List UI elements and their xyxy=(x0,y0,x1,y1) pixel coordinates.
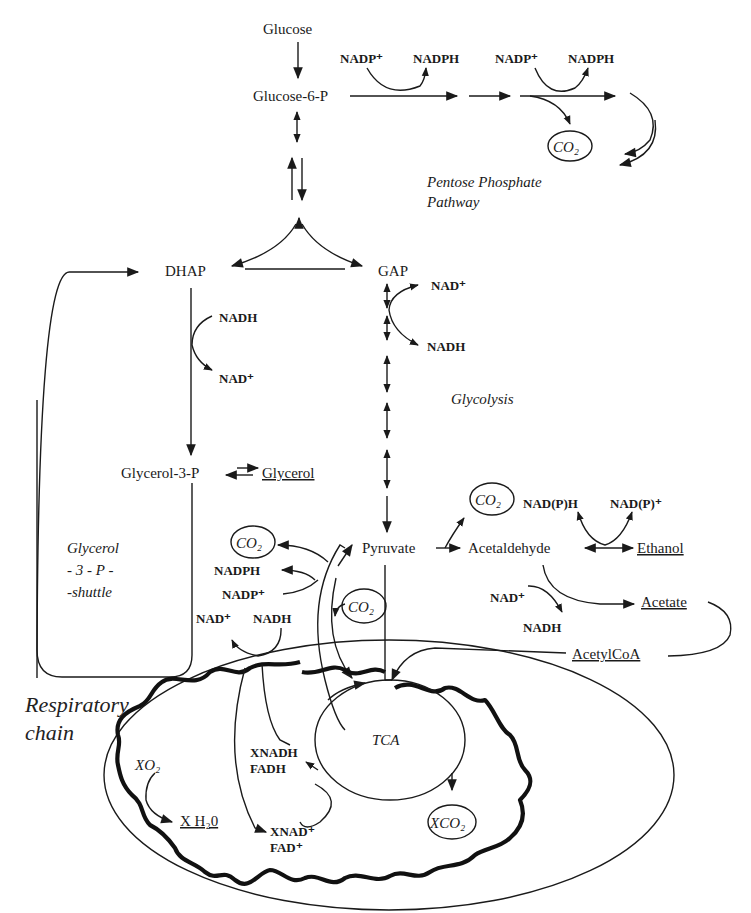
co2-label: CO₂ xyxy=(553,139,579,155)
metabolic-pathway-diagram: Glucose Glucose-6-P NADP⁺ NADPH NADP⁺ NA… xyxy=(0,0,751,913)
nadph-label: NADPH xyxy=(214,563,260,578)
tca-label: TCA xyxy=(372,732,400,748)
nadh-label: NADH xyxy=(219,310,257,325)
xo2-label: XO₂ xyxy=(134,757,160,773)
nad-label: NAD⁺ xyxy=(196,611,231,626)
aldolase-to-gap-arrow xyxy=(302,224,362,266)
acetaldehyde-label: Acetaldehyde xyxy=(468,540,551,556)
nadh-to-xnadh-line xyxy=(262,664,290,745)
aldolase-to-dhap-arrow xyxy=(232,224,296,266)
nadh-label: NADH xyxy=(427,339,465,354)
from-nadp-line xyxy=(283,580,318,594)
shuttle-title-line1: Glycerol xyxy=(67,540,119,556)
acetylcoa-label: AcetylCoA xyxy=(572,646,640,662)
nadph-nadp-curve xyxy=(578,512,632,545)
to-co2-arrow xyxy=(278,545,328,562)
co2-arrow xyxy=(335,604,345,616)
glycerol-label: Glycerol xyxy=(262,465,314,481)
respiratory-chain-title-line2: chain xyxy=(25,720,74,745)
gap-label: GAP xyxy=(378,263,408,279)
nadph-label: NADPH xyxy=(568,51,614,66)
shuttle-loop-line xyxy=(37,400,192,677)
ethanol-label: Ethanol xyxy=(637,540,684,556)
to-nadph-arrow xyxy=(282,570,315,580)
nadp-label: NADP⁺ xyxy=(340,51,383,66)
xh2o-label: X H₂0 xyxy=(180,813,218,829)
co2-label: CO₂ xyxy=(348,599,374,615)
nadp-label: NAD(P)⁺ xyxy=(610,496,662,511)
nad-label: NAD⁺ xyxy=(431,278,466,293)
nad-to-nadh-curve xyxy=(389,285,418,345)
shuttle-title-line3: -shuttle xyxy=(67,584,112,600)
nad-label: NAD⁺ xyxy=(490,590,525,605)
xnad-to-tca-curve xyxy=(300,784,331,827)
xnadh-label: XNADH xyxy=(250,745,298,760)
nadph-label: NADPH xyxy=(413,51,459,66)
shuttle-title-line2: - 3 - P - xyxy=(67,562,113,578)
to-pyruvate-arrow xyxy=(338,545,352,566)
ppp-curve-arrow xyxy=(620,120,656,165)
ppp-title-line2: Pathway xyxy=(426,194,480,210)
acetaldehyde-to-acetate-arrow xyxy=(543,565,634,604)
co2-label: CO₂ xyxy=(475,492,501,508)
glucose-label: Glucose xyxy=(263,21,312,37)
nadp-nadph-curve xyxy=(367,68,426,90)
nadp-label: NADP⁺ xyxy=(222,587,265,602)
fadh-label: FADH xyxy=(250,761,286,776)
respiratory-chain-title-line1: Respiratory xyxy=(24,692,129,717)
nadph-label: NAD(P)H xyxy=(523,496,578,511)
acetate-label: Acetate xyxy=(641,594,687,610)
nadh-label: NADH xyxy=(523,620,561,635)
ppp-curve-arrow xyxy=(625,93,653,154)
fad-label: FAD⁺ xyxy=(270,840,303,855)
xco2-label: XCO₂ xyxy=(429,815,465,831)
glycerol-3-p-label: Glycerol-3-P xyxy=(121,465,199,481)
pyruvate-label: Pyruvate xyxy=(362,540,416,556)
ppp-title-line1: Pentose Phosphate xyxy=(426,174,542,190)
nad-label: NAD⁺ xyxy=(219,371,254,386)
tca-to-xnadh-arrow xyxy=(306,762,318,770)
pdc-co2-arrow xyxy=(445,518,464,548)
co2-release-arrow xyxy=(530,96,570,124)
co2-label: CO₂ xyxy=(236,535,262,551)
acetylcoa-to-tca-arrow xyxy=(392,648,566,680)
nadp-label: NADP⁺ xyxy=(495,51,538,66)
xnad-label: XNAD⁺ xyxy=(270,824,315,839)
glucose-6-p-label: Glucose-6-P xyxy=(253,88,328,104)
nadh-label: NADH xyxy=(253,611,291,626)
nadh-to-nad-curve xyxy=(192,316,212,370)
nadp-nadph-curve xyxy=(535,68,588,91)
mitochondrion-inner-membrane xyxy=(117,662,530,884)
dhap-label: DHAP xyxy=(165,263,206,279)
o2-to-h2o-arrow xyxy=(146,773,172,822)
acetate-to-acetylcoa-line xyxy=(668,602,731,656)
glycolysis-title: Glycolysis xyxy=(451,391,514,407)
